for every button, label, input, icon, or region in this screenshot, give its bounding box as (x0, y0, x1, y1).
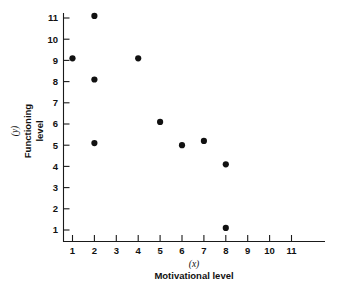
y-axis-tick-labels: 11 10 9 8 7 6 5 4 3 2 1 (47, 12, 58, 235)
x-tick-label-7: 7 (201, 245, 206, 256)
y-tick-label-4: 4 (53, 161, 59, 172)
x-tick-label-9: 9 (245, 245, 250, 256)
data-point (223, 225, 229, 231)
x-tick-label-4: 4 (136, 245, 142, 256)
y-tick-label-1: 1 (53, 224, 59, 235)
x-tick-label-3: 3 (114, 245, 119, 256)
x-tick-label-1: 1 (70, 245, 76, 256)
y-tick-label-6: 6 (53, 118, 58, 129)
y-tick-label-9: 9 (53, 55, 58, 66)
data-point (91, 76, 97, 82)
x-tick-label-8: 8 (223, 245, 228, 256)
data-point (157, 119, 163, 125)
data-point (135, 55, 141, 61)
y-tick-label-8: 8 (53, 76, 58, 87)
data-point (91, 140, 97, 146)
y-axis-ticks (64, 18, 70, 230)
y-tick-label-2: 2 (53, 203, 58, 214)
x-axis-tick-labels: 1 2 3 4 5 6 7 8 9 10 11 (70, 245, 297, 256)
data-point (201, 138, 207, 144)
data-point (91, 13, 97, 19)
y-tick-label-7: 7 (53, 97, 58, 108)
x-axis-title: Motivational level (154, 270, 233, 281)
x-axis-variable-label: (x) (189, 259, 200, 270)
y-axis-title-line2: level (34, 120, 45, 141)
data-point (69, 55, 75, 61)
y-tick-label-11: 11 (48, 12, 59, 23)
data-point (179, 142, 185, 148)
plot-axes (64, 13, 326, 242)
scatter-series (69, 13, 229, 231)
scatter-plot-figure: 11 10 9 8 7 6 5 4 3 2 1 1 (0, 0, 337, 285)
y-axis-variable-label: (y) (10, 126, 21, 137)
x-tick-label-6: 6 (179, 245, 184, 256)
y-tick-label-5: 5 (53, 140, 59, 151)
y-axis-title-line1: Functioning (22, 104, 33, 159)
x-tick-label-2: 2 (92, 245, 97, 256)
x-tick-label-11: 11 (286, 245, 297, 256)
data-point (223, 161, 229, 167)
x-tick-label-10: 10 (264, 245, 275, 256)
scatter-plot-canvas: 11 10 9 8 7 6 5 4 3 2 1 1 (0, 0, 337, 285)
x-axis-ticks (73, 235, 292, 242)
y-tick-label-3: 3 (53, 182, 58, 193)
x-tick-label-5: 5 (157, 245, 163, 256)
y-tick-label-10: 10 (47, 34, 58, 45)
